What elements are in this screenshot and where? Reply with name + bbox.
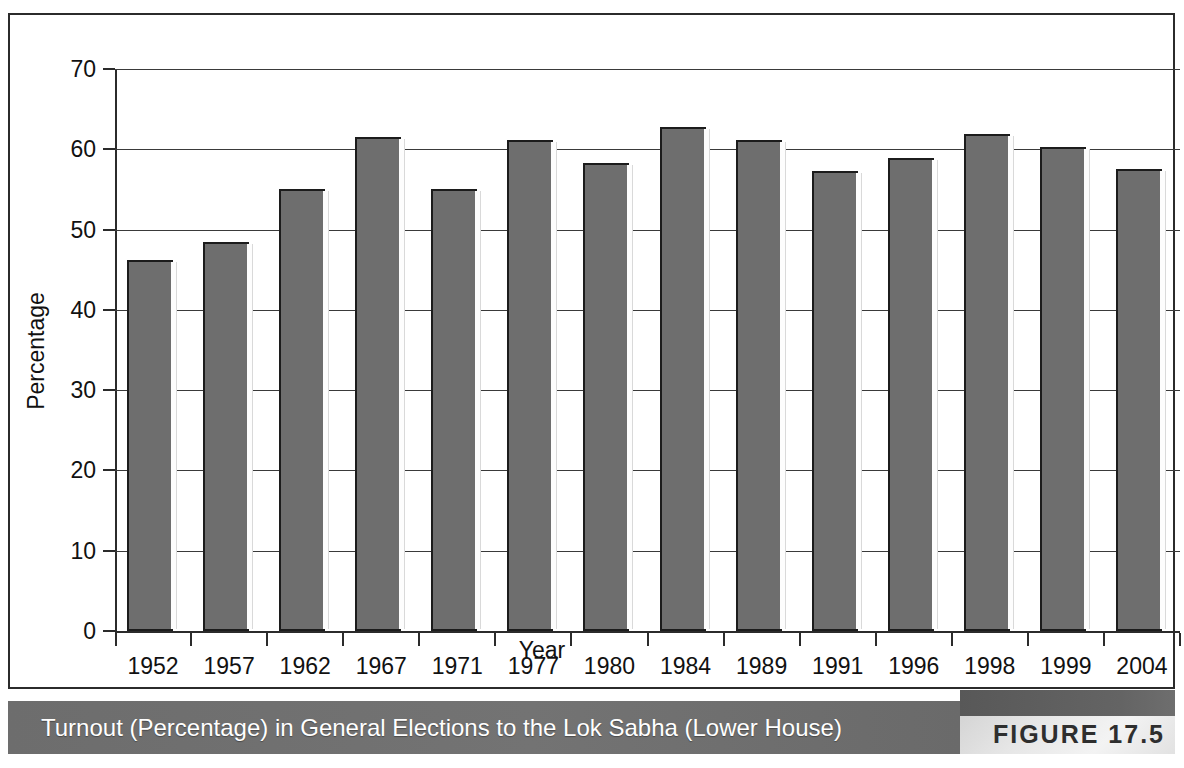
bar <box>736 140 782 631</box>
bar <box>964 134 1010 631</box>
y-tick-label: 50 <box>70 216 96 243</box>
y-tick-label: 40 <box>70 296 96 323</box>
y-tick <box>103 469 115 471</box>
bar <box>203 242 249 631</box>
bar <box>660 127 706 631</box>
figure-page: Percentage 010203040506070 1952195719621… <box>0 0 1184 768</box>
bar <box>1116 169 1162 631</box>
chart-frame: Percentage 010203040506070 1952195719621… <box>8 13 1175 689</box>
x-tick <box>418 633 420 646</box>
x-tick <box>1179 633 1181 646</box>
gridline <box>115 551 1180 552</box>
y-tick-label: 70 <box>70 56 96 83</box>
y-tick <box>103 630 115 632</box>
x-tick <box>647 633 649 646</box>
x-tick <box>190 633 192 646</box>
x-tick <box>799 633 801 646</box>
x-tick-label: 1962 <box>280 653 331 680</box>
x-tick-label: 2004 <box>1116 653 1167 680</box>
figure-label-panel: FIGURE 17.5 <box>960 690 1175 754</box>
x-tick-label: 1989 <box>736 653 787 680</box>
x-tick <box>723 633 725 646</box>
x-tick <box>951 633 953 646</box>
y-tick <box>103 309 115 311</box>
y-tick-label: 30 <box>70 377 96 404</box>
bar <box>583 163 629 631</box>
x-tick-label: 1971 <box>432 653 483 680</box>
x-tick-label: 1984 <box>660 653 711 680</box>
bar <box>812 171 858 631</box>
figure-caption: Turnout (Percentage) in General Election… <box>41 714 842 742</box>
x-tick-label: 1999 <box>1040 653 1091 680</box>
bar <box>127 260 173 631</box>
x-tick-label: 1957 <box>204 653 255 680</box>
x-tick-label: 1967 <box>356 653 407 680</box>
y-tick-label: 10 <box>70 537 96 564</box>
bar <box>431 189 477 631</box>
x-tick <box>115 633 117 646</box>
bar <box>888 158 934 631</box>
x-tick-label: 1952 <box>127 653 178 680</box>
y-tick-label: 60 <box>70 136 96 163</box>
x-axis-title: Year <box>519 637 565 664</box>
bar <box>507 140 553 631</box>
y-axis-title: Percentage <box>23 292 50 410</box>
x-tick <box>1103 633 1105 646</box>
x-tick-label: 1996 <box>888 653 939 680</box>
y-tick <box>103 68 115 70</box>
x-tick <box>875 633 877 646</box>
x-tick <box>1027 633 1029 646</box>
x-tick <box>570 633 572 646</box>
figure-number-label: FIGURE 17.5 <box>993 720 1165 749</box>
plot-area: 010203040506070 195219571962196719711977… <box>115 69 1180 633</box>
gridline <box>115 310 1180 311</box>
y-tick-label: 0 <box>83 618 96 645</box>
y-axis-line <box>115 69 117 633</box>
bar <box>279 189 325 631</box>
y-tick <box>103 389 115 391</box>
gridline <box>115 69 1180 70</box>
gridline <box>115 390 1180 391</box>
x-tick-label: 1991 <box>812 653 863 680</box>
bar <box>1040 147 1086 631</box>
y-tick <box>103 148 115 150</box>
bar <box>355 137 401 631</box>
y-tick-label: 20 <box>70 457 96 484</box>
caption-bar: Turnout (Percentage) in General Election… <box>8 701 960 754</box>
x-tick <box>266 633 268 646</box>
y-tick <box>103 229 115 231</box>
gridline <box>115 470 1180 471</box>
y-tick <box>103 550 115 552</box>
x-tick <box>342 633 344 646</box>
x-tick <box>494 633 496 646</box>
x-tick-label: 1998 <box>964 653 1015 680</box>
x-tick-label: 1980 <box>584 653 635 680</box>
gridline <box>115 149 1180 150</box>
caption-band: Turnout (Percentage) in General Election… <box>8 701 1175 754</box>
gridline <box>115 230 1180 231</box>
